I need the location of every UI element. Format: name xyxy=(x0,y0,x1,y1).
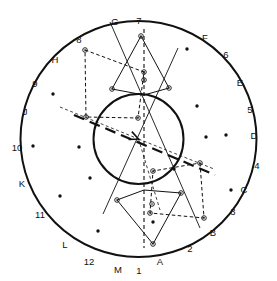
scatter-point-11 xyxy=(229,188,232,191)
rim-number-label-10: 10 xyxy=(12,142,23,153)
upper-kite-polygon-vertex-dot xyxy=(111,88,113,90)
scatter-point-7 xyxy=(185,47,188,50)
scatter-point-5 xyxy=(96,229,99,232)
lower-kite-polygon-vertex-dot xyxy=(116,199,118,201)
polygon-vertex-markers-group xyxy=(110,34,184,247)
rim-number-label-3: 3 xyxy=(230,206,235,217)
scatter-point-9 xyxy=(204,135,207,138)
lower-right-dashed-quadrilateral-vertex-dot xyxy=(199,162,201,164)
radial-dashed-upper-left xyxy=(60,107,139,139)
lower-kite-polygon-vertex-dot xyxy=(152,243,154,245)
rim-number-label-5: 5 xyxy=(247,104,252,115)
scatter-point-2 xyxy=(31,144,34,147)
rim-letter-label-E: E xyxy=(237,77,243,88)
rim-number-label-12: 12 xyxy=(84,256,95,267)
upper-left-dashed-quadrilateral-vertex-dot xyxy=(84,49,86,51)
scatter-point-12 xyxy=(172,167,175,170)
upper-left-dashed-quadrilateral-vertex-dot xyxy=(85,116,87,118)
rim-number-label-1: 1 xyxy=(136,265,141,276)
circular-diagram: ABCDEFGHJKLM 123456789101112 xyxy=(0,0,277,281)
lower-kite-polygon xyxy=(117,190,181,244)
upper-left-dashed-quadrilateral-vertex-dot xyxy=(137,117,139,119)
diagram-canvas: ABCDEFGHJKLM 123456789101112 xyxy=(0,0,277,281)
cross-lines-group xyxy=(103,22,200,228)
rim-number-label-7: 7 xyxy=(136,15,141,26)
scatter-point-13 xyxy=(151,220,154,223)
lower-kite-polygon-vertex-dot xyxy=(180,192,182,194)
center-arrow xyxy=(74,115,215,175)
lower-kite-polygon-path xyxy=(117,190,181,244)
rim-number-label-11: 11 xyxy=(35,209,45,220)
scatter-point-1 xyxy=(51,92,54,95)
rim-number-label-4: 4 xyxy=(254,160,259,171)
rim-letter-label-M: M xyxy=(114,264,122,275)
rim-number-label-8: 8 xyxy=(76,34,81,45)
scatter-point-3 xyxy=(77,145,80,148)
rim-letter-label-G: G xyxy=(111,16,118,27)
scatter-point-8 xyxy=(195,104,198,107)
upper-kite-polygon-vertex-dot xyxy=(140,35,142,37)
lower-right-dashed-quadrilateral-vertex-dot xyxy=(149,212,151,214)
rim-letter-label-H: H xyxy=(52,54,59,65)
scatter-point-4 xyxy=(58,194,61,197)
rim-letter-label-A: A xyxy=(157,256,164,267)
rim-letter-label-B: B xyxy=(210,227,216,238)
upper-kite-polygon-vertex-dot xyxy=(143,79,145,81)
rim-letter-label-C: C xyxy=(241,184,248,195)
rim-number-labels-group: 123456789101112 xyxy=(12,15,260,276)
lower-right-dashed-quadrilateral-path xyxy=(150,163,204,218)
rim-letter-label-F: F xyxy=(202,32,208,43)
rim-number-label-6: 6 xyxy=(223,49,228,60)
lower-kite-polygon-vertex-dot xyxy=(151,203,153,205)
center-arrow-shaft xyxy=(74,115,215,175)
lower-right-dashed-quadrilateral xyxy=(148,161,207,221)
thin-dashed-radials-group xyxy=(60,107,214,210)
rim-number-label-9: 9 xyxy=(32,78,37,89)
rim-number-label-2: 2 xyxy=(187,243,192,254)
rim-letter-label-K: K xyxy=(19,178,26,189)
lower-right-dashed-quadrilateral-vertex-dot xyxy=(152,170,154,172)
lower-right-dashed-quadrilateral-vertex-dot xyxy=(203,217,205,219)
scatter-point-10 xyxy=(224,133,227,136)
rim-letter-label-J: J xyxy=(23,106,28,117)
upper-kite-polygon-vertex-dot xyxy=(168,87,170,89)
scatter-point-6 xyxy=(88,176,91,179)
rim-letter-label-L: L xyxy=(62,239,67,250)
upper-left-dashed-quadrilateral-vertex-dot xyxy=(143,71,145,73)
rim-letter-label-D: D xyxy=(251,130,258,141)
